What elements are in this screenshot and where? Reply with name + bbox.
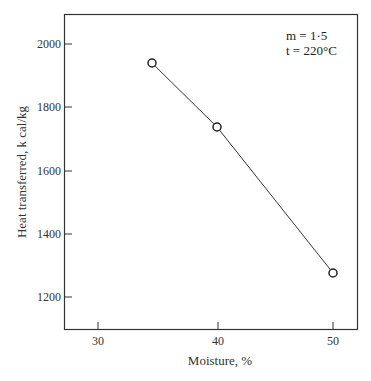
- data-point: [148, 59, 156, 67]
- data-line: [152, 63, 333, 273]
- data-markers: [148, 59, 337, 277]
- y-tick-label: 1400: [37, 227, 61, 241]
- x-tick-label: 50: [327, 334, 339, 348]
- data-point: [213, 123, 221, 131]
- x-axis-tick-labels: 30 40 50: [92, 334, 339, 348]
- y-axis-label: Heat transferred, k cal/kg: [14, 105, 29, 238]
- plot-frame: [65, 15, 358, 330]
- y-axis-ticks: [65, 44, 73, 297]
- y-tick-label: 2000: [37, 37, 61, 51]
- chart: 2000 1800 1600 1400 1200 30 40 50 Moistu…: [0, 0, 371, 381]
- x-axis-label: Moisture, %: [188, 353, 252, 368]
- x-tick-label: 40: [212, 334, 224, 348]
- annotation-m: m = 1·5: [286, 28, 327, 43]
- y-axis-tick-labels: 2000 1800 1600 1400 1200: [37, 37, 61, 304]
- x-tick-label: 30: [92, 334, 104, 348]
- y-tick-label: 1200: [37, 290, 61, 304]
- annotation-t: t = 220°C: [286, 43, 337, 58]
- x-axis-ticks: [98, 322, 333, 330]
- data-point: [329, 269, 337, 277]
- y-tick-label: 1800: [37, 100, 61, 114]
- y-tick-label: 1600: [37, 164, 61, 178]
